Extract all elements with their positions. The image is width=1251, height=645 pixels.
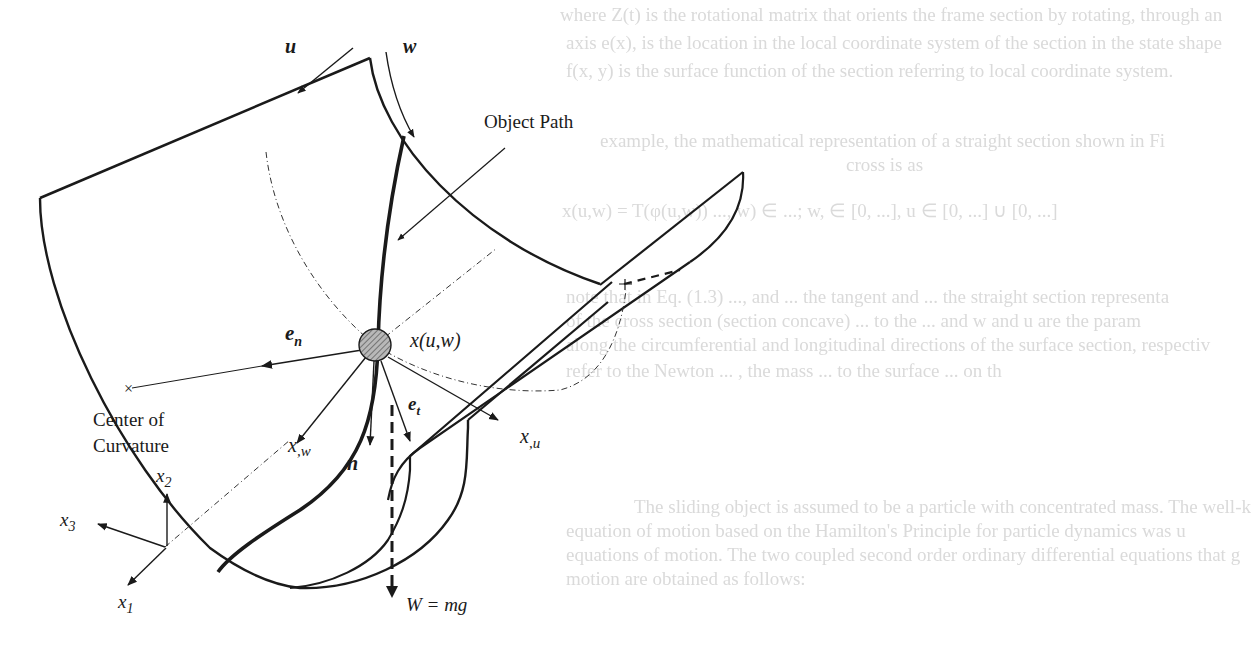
trough-left-top-edge	[40, 58, 370, 198]
construction-lines	[165, 152, 626, 547]
particle	[359, 329, 391, 361]
far-end-tick	[619, 279, 632, 290]
axis-x3	[98, 524, 165, 547]
trough-far-top-edge	[600, 172, 743, 285]
weight-arrowhead	[386, 586, 398, 598]
trough-near-cross-section	[40, 198, 468, 588]
object-path-label: Object Path	[484, 111, 574, 132]
axis-x2-label-sub: 2	[164, 475, 171, 490]
vectors	[132, 350, 498, 590]
trough-inner-right-edge	[290, 282, 612, 588]
trough-hidden-edge	[624, 270, 680, 284]
axis-x1-label: x1	[117, 591, 133, 616]
x-w-label-base: x	[287, 434, 297, 456]
trough-far-cross-section	[690, 172, 743, 262]
weight-label: W = mg	[406, 594, 467, 615]
e-t-vector	[381, 361, 410, 441]
e-n-label-sub: n	[294, 334, 302, 349]
radius-line	[132, 366, 262, 388]
x-u-vector	[388, 357, 498, 420]
center-of-curvature-marker: ×	[124, 380, 133, 397]
x-w-label-sub: ,w	[297, 443, 311, 459]
x-w-vector	[297, 357, 366, 443]
x-w-label: x,w	[287, 434, 311, 459]
axis-x3-label: x3	[59, 509, 75, 534]
e-n-label-base: e	[285, 321, 294, 345]
trough-right-outer-edge	[388, 262, 690, 500]
e-t-label: et	[408, 393, 420, 418]
position-label: x(u,w)	[409, 329, 461, 352]
trough-right-parallel-edges	[290, 262, 690, 588]
center-of-curvature-label-line2: Curvature	[93, 435, 169, 456]
global-axes	[98, 494, 167, 585]
x-u-label-base: x	[519, 425, 529, 447]
circumferential-arc-left	[266, 152, 375, 345]
u-direction-arrow	[298, 48, 353, 93]
x-u-label-sub: ,u	[529, 435, 540, 451]
trough-back-curve	[370, 58, 600, 284]
e-n-label: en	[285, 321, 302, 349]
e-t-label-sub: t	[416, 403, 420, 418]
axis-x3-label-sub: 3	[67, 519, 75, 534]
w-direction-arrow	[386, 52, 414, 137]
w-label: w	[403, 35, 417, 57]
e-n-vector	[262, 350, 362, 366]
longitudinal-line-lower	[165, 440, 290, 547]
x-u-label: x,u	[519, 425, 540, 451]
trough-right-lip	[468, 302, 608, 420]
u-label: u	[285, 35, 296, 57]
axis-x1	[128, 548, 166, 585]
n-label: n	[347, 452, 358, 474]
center-of-curvature-label-line1: Center of	[93, 409, 165, 430]
axis-x1-label-sub: 1	[126, 601, 133, 616]
